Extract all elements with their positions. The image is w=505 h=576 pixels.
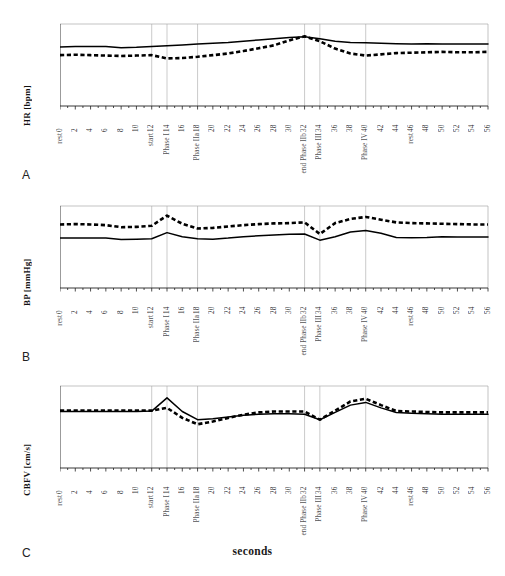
x-tick-value: 14 bbox=[162, 300, 173, 314]
x-tick-30: 30 bbox=[284, 300, 295, 314]
x-tick-value: 16 bbox=[177, 118, 188, 132]
x-tick-26: 26 bbox=[253, 480, 264, 494]
x-tick-36: 36 bbox=[330, 118, 341, 132]
x-tick-26: 26 bbox=[253, 300, 264, 314]
x-tick-value: 12 bbox=[146, 300, 157, 314]
x-tick-34: 34Phase III bbox=[314, 300, 325, 342]
x-tick-42: 42 bbox=[376, 300, 387, 314]
y-axis-label-hr: HR [bpm] bbox=[22, 46, 32, 126]
phase-annotation: Phase III bbox=[314, 495, 325, 522]
phase-annotation: rest bbox=[55, 315, 66, 326]
x-tick-28: 28 bbox=[269, 480, 280, 494]
x-tick-value: 34 bbox=[314, 118, 325, 132]
x-tick-labels-cbfv: 0rest24681012start14Phase I1618Phase IIa… bbox=[60, 480, 492, 554]
x-tick-14: 14Phase I bbox=[162, 300, 173, 337]
x-tick-value: 42 bbox=[376, 118, 387, 132]
phase-annotation: Phase III bbox=[314, 315, 325, 342]
x-tick-value: 28 bbox=[269, 480, 280, 494]
x-tick-6: 6 bbox=[100, 118, 111, 132]
phase-annotation: Phase IIa bbox=[192, 133, 203, 160]
x-tick-labels-hr: 0rest24681012start14Phase I1618Phase IIa… bbox=[60, 118, 492, 192]
x-tick-value: 20 bbox=[207, 480, 218, 494]
x-tick-48: 48 bbox=[421, 300, 432, 314]
x-tick-48: 48 bbox=[421, 480, 432, 494]
series-solid bbox=[60, 231, 488, 241]
x-tick-value: 36 bbox=[330, 480, 341, 494]
x-tick-value: 0 bbox=[55, 300, 66, 314]
x-tick-value: 46 bbox=[406, 480, 417, 494]
x-tick-18: 18Phase IIa bbox=[192, 300, 203, 342]
x-tick-value: 26 bbox=[253, 480, 264, 494]
phase-annotation: start bbox=[146, 495, 157, 508]
x-tick-value: 54 bbox=[467, 118, 478, 132]
panel-bp: BP [mmHg] 020406080100120 0rest24681012s… bbox=[0, 190, 505, 376]
x-tick-value: 12 bbox=[146, 118, 157, 132]
x-tick-46: 46rest bbox=[406, 480, 417, 506]
x-tick-54: 54 bbox=[467, 480, 478, 494]
x-tick-value: 52 bbox=[452, 118, 463, 132]
phase-annotation: Phase IV bbox=[360, 315, 371, 342]
chart-bp: 020406080100120 bbox=[60, 204, 496, 296]
x-tick-value: 22 bbox=[223, 300, 234, 314]
x-tick-value: 36 bbox=[330, 118, 341, 132]
x-tick-value: 56 bbox=[483, 300, 494, 314]
x-tick-value: 40 bbox=[360, 300, 371, 314]
x-tick-value: 50 bbox=[437, 118, 448, 132]
phase-annotation: rest bbox=[406, 133, 417, 144]
x-tick-value: 20 bbox=[207, 300, 218, 314]
x-tick-24: 24 bbox=[238, 300, 249, 314]
x-tick-value: 54 bbox=[467, 480, 478, 494]
x-tick-value: 18 bbox=[192, 300, 203, 314]
x-tick-value: 12 bbox=[146, 480, 157, 494]
x-tick-value: 20 bbox=[207, 118, 218, 132]
x-tick-value: 28 bbox=[269, 118, 280, 132]
plot-area-cbfv: 0102030405060708090 bbox=[60, 384, 496, 476]
series-solid bbox=[60, 37, 488, 48]
x-tick-8: 8 bbox=[116, 480, 127, 494]
x-tick-12: 12start bbox=[146, 118, 157, 146]
x-tick-50: 50 bbox=[437, 480, 448, 494]
phase-annotation: Phase I bbox=[162, 315, 173, 337]
phase-annotation: end Phase IIb bbox=[299, 495, 310, 535]
x-tick-value: 48 bbox=[421, 118, 432, 132]
x-tick-value: 52 bbox=[452, 480, 463, 494]
x-tick-34: 34Phase III bbox=[314, 118, 325, 160]
x-tick-value: 10 bbox=[131, 118, 142, 132]
x-tick-42: 42 bbox=[376, 118, 387, 132]
x-tick-6: 6 bbox=[100, 300, 111, 314]
phase-annotation: Phase IIa bbox=[192, 495, 203, 522]
x-tick-value: 54 bbox=[467, 300, 478, 314]
x-tick-value: 8 bbox=[116, 118, 127, 132]
x-tick-value: 8 bbox=[116, 300, 127, 314]
plot-area-bp: 020406080100120 bbox=[60, 204, 496, 296]
x-tick-0: 0rest bbox=[55, 300, 66, 326]
series-dashed bbox=[60, 399, 488, 425]
x-tick-value: 24 bbox=[238, 300, 249, 314]
phase-annotation: Phase IIa bbox=[192, 315, 203, 342]
chart-hr: 0102030405060708090100 bbox=[60, 22, 496, 114]
x-tick-50: 50 bbox=[437, 300, 448, 314]
x-tick-44: 44 bbox=[391, 300, 402, 314]
x-tick-value: 56 bbox=[483, 480, 494, 494]
x-tick-54: 54 bbox=[467, 300, 478, 314]
x-tick-8: 8 bbox=[116, 300, 127, 314]
x-tick-2: 2 bbox=[70, 480, 81, 494]
x-axis-title: seconds bbox=[0, 545, 505, 557]
x-tick-52: 52 bbox=[452, 480, 463, 494]
x-tick-20: 20 bbox=[207, 300, 218, 314]
x-tick-6: 6 bbox=[100, 480, 111, 494]
x-tick-32: 32end Phase IIb bbox=[299, 300, 310, 355]
x-tick-44: 44 bbox=[391, 480, 402, 494]
plot-area-hr: 0102030405060708090100 bbox=[60, 22, 496, 114]
figure-root: HR [bpm] 0102030405060708090100 0rest246… bbox=[0, 0, 505, 576]
x-tick-value: 6 bbox=[100, 118, 111, 132]
phase-annotation: Phase I bbox=[162, 495, 173, 517]
x-tick-value: 44 bbox=[391, 300, 402, 314]
x-tick-16: 16 bbox=[177, 118, 188, 132]
x-tick-42: 42 bbox=[376, 480, 387, 494]
x-tick-14: 14Phase I bbox=[162, 118, 173, 155]
x-tick-56: 56 bbox=[483, 118, 494, 132]
x-tick-30: 30 bbox=[284, 118, 295, 132]
x-tick-value: 46 bbox=[406, 118, 417, 132]
panel-letter-b: B bbox=[22, 350, 30, 364]
